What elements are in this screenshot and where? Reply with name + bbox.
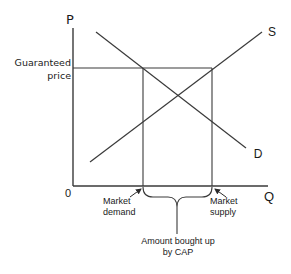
market-demand-arrow [130, 189, 141, 197]
guaranteed-price-label-line1: Guaranteed [15, 57, 71, 68]
market-demand-label-line2: demand [103, 207, 136, 217]
surplus-brace [143, 187, 212, 207]
supply-label: S [268, 25, 276, 39]
x-axis-label: Q [264, 189, 274, 204]
guaranteed-price-label-line2: price [47, 70, 71, 81]
cap-price-support-diagram: P Q 0 S D Guaranteed price Market demand… [0, 0, 291, 274]
market-supply-label-line1: Market [210, 196, 238, 206]
market-demand-label-line1: Market [103, 196, 131, 206]
origin-label: 0 [65, 187, 71, 199]
surplus-label-line1: Amount bought up [141, 236, 215, 246]
y-axis-label: P [66, 12, 74, 27]
surplus-label-line2: by CAP [163, 247, 194, 257]
diagram-canvas: P Q 0 S D Guaranteed price Market demand… [0, 0, 291, 274]
market-supply-label-line2: supply [210, 207, 237, 217]
supply-curve [90, 32, 262, 162]
demand-curve [96, 32, 246, 148]
demand-label: D [254, 147, 263, 161]
